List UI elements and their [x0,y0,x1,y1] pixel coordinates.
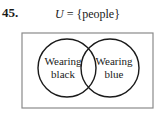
set-label-blue-line1: Wearing [96,55,133,67]
set-label-black-line1: Wearing [45,55,82,67]
venn-diagram: Wearing black Wearing blue [0,0,161,118]
set-label-black-line2: black [51,68,75,80]
set-label-blue-line2: blue [105,68,124,80]
universe-rectangle [22,33,153,108]
